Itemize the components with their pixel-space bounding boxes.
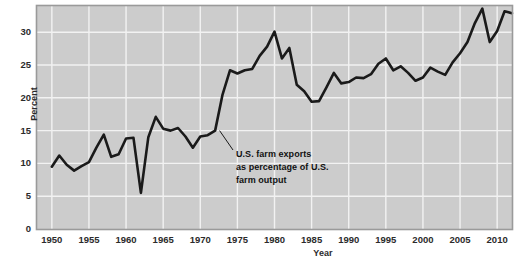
x-tick-label: 1995 <box>366 234 406 245</box>
y-tick-label: 30 <box>7 26 31 37</box>
y-tick-label: 15 <box>7 125 31 136</box>
x-tick-label: 2005 <box>440 234 480 245</box>
y-tick-label: 25 <box>7 59 31 70</box>
x-tick-label: 1965 <box>143 234 183 245</box>
annotation-line-1: U.S. farm exports <box>236 148 386 161</box>
annotation-line-3: farm output <box>236 174 386 187</box>
x-tick-label: 1990 <box>329 234 369 245</box>
x-tick-label: 1980 <box>255 234 295 245</box>
y-tick-label: 5 <box>7 190 31 201</box>
x-tick-label: 1955 <box>69 234 109 245</box>
x-tick-label: 1970 <box>180 234 220 245</box>
y-tick-label: 20 <box>7 92 31 103</box>
x-tick-label: 1975 <box>217 234 257 245</box>
series-annotation: U.S. farm exports as percentage of U.S. … <box>236 148 386 188</box>
x-tick-label: 2010 <box>477 234 517 245</box>
x-tick-label: 1960 <box>106 234 146 245</box>
line-chart <box>0 0 518 268</box>
x-tick-label: 1950 <box>32 234 72 245</box>
y-tick-label: 0 <box>7 223 31 234</box>
chart-figure: Percent Year 051015202530 19501955196019… <box>0 0 518 268</box>
y-tick-label: 10 <box>7 157 31 168</box>
x-tick-label: 2000 <box>403 234 443 245</box>
x-tick-label: 1985 <box>292 234 332 245</box>
annotation-line-2: as percentage of U.S. <box>236 161 386 174</box>
x-axis-title: Year <box>288 248 358 258</box>
